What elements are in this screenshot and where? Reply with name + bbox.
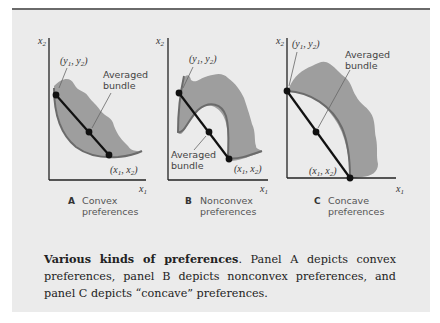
- panel-c: x2 x1 (y1, y2) Averaged bundle (x1, x2) …: [275, 35, 404, 217]
- panel-c-title: Concave: [328, 195, 369, 206]
- panel-b-averaged-label-2: bundle: [171, 160, 204, 171]
- panel-c-x-axis-label: x1: [395, 183, 404, 196]
- panel-c-y-axis-label: x2: [275, 35, 284, 48]
- panel-b-title: Nonconvex: [200, 195, 253, 206]
- panel-b-title-2: preferences: [200, 206, 256, 217]
- panel-a-averaged-label-2: bundle: [103, 80, 136, 91]
- panel-c-point-y-label: (y1, y2): [292, 38, 320, 51]
- panel-c-preferred-set: [289, 62, 378, 178]
- panel-c-averaged-label-2: bundle: [345, 60, 378, 71]
- panel-c-letter: C: [314, 196, 321, 206]
- panel-a-point-y-label: (y1, y2): [60, 55, 88, 68]
- panel-b: x2 x1 (y1, y2) Averaged bundle (x1, x2) …: [155, 35, 268, 217]
- panel-a-averaged-label: Averaged: [103, 69, 148, 80]
- panel-b-letter: B: [185, 196, 192, 206]
- panel-b-averaged-label: Averaged: [171, 149, 216, 160]
- figure-caption: Various kinds of preferences. Panel A de…: [44, 251, 396, 302]
- panel-a-point-x-label: (x1, x2): [110, 164, 138, 177]
- panel-a-letter: A: [68, 196, 75, 206]
- panel-b-y-axis-label: x2: [155, 35, 164, 48]
- panel-b-x-axis-label: x1: [259, 183, 268, 196]
- panel-a-title-2: preferences: [82, 206, 138, 217]
- panel-c-title-2: preferences: [328, 206, 384, 217]
- panel-c-point-x-label: (x1, x2): [309, 165, 337, 178]
- panel-b-point-x-label: (x1, x2): [234, 163, 262, 176]
- panel-a-x-axis-label: x1: [138, 183, 147, 196]
- caption-title: Various kinds of preferences: [44, 252, 238, 266]
- panel-b-point-y-label: (y1, y2): [189, 53, 217, 66]
- panel-c-averaged-label: Averaged: [345, 49, 390, 60]
- panel-a: x2 x1 (y1, y2) Averaged bundle (x1, x2) …: [37, 35, 148, 217]
- panel-a-title: Convex: [82, 195, 118, 206]
- panel-a-y-axis-label: x2: [37, 35, 46, 48]
